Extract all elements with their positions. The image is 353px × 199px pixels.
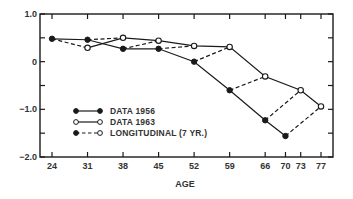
legend: DATA 1956DATA 1963LONGITUDINAL (7 YR.): [74, 106, 208, 138]
filled-circle-marker: [49, 36, 54, 41]
line-chart: 1.00−1.0−2.0 24313845525966707377 DATA 1…: [0, 0, 353, 199]
filled-circle-icon: [98, 109, 103, 114]
x-tick-label: 38: [118, 161, 128, 171]
filled-circle-marker: [191, 59, 196, 64]
y-tick-label: 0: [32, 57, 37, 67]
open-circle-marker: [156, 38, 161, 43]
legend-item: DATA 1963: [74, 117, 156, 127]
open-circle-marker: [318, 104, 323, 109]
x-tick-label: 45: [154, 161, 164, 171]
filled-circle-marker: [85, 37, 90, 42]
filled-circle-marker: [262, 118, 267, 123]
longitudinal-segment: [230, 76, 266, 90]
legend-item: LONGITUDINAL (7 YR.): [74, 128, 208, 138]
open-circle-marker: [191, 43, 196, 48]
legend-label: LONGITUDINAL (7 YR.): [110, 128, 207, 138]
open-circle-marker: [227, 44, 232, 49]
open-circle-marker: [298, 88, 303, 93]
x-tick-label: 31: [83, 161, 93, 171]
filled-circle-marker: [156, 46, 161, 51]
longitudinal-segment: [285, 106, 321, 136]
open-circle-marker: [85, 45, 90, 50]
legend-label: DATA 1963: [110, 117, 155, 127]
y-tick-label: 1.0: [24, 9, 37, 19]
longitudinal-segment: [265, 90, 301, 120]
longitudinal-segment: [159, 46, 195, 49]
open-circle-icon: [98, 120, 103, 125]
filled-circle-marker: [120, 46, 125, 51]
longitudinal-segment: [194, 47, 230, 62]
filled-circle-icon: [74, 131, 79, 136]
longitudinal-segment: [123, 41, 159, 49]
plot-series: [49, 35, 323, 139]
x-tick-label: 73: [296, 161, 306, 171]
x-tick-label: 66: [260, 161, 270, 171]
y-tick-label: −2.0: [19, 152, 37, 162]
filled-circle-marker: [227, 88, 232, 93]
open-circle-marker: [120, 35, 125, 40]
filled-circle-icon: [74, 109, 79, 114]
x-tick-label: 70: [280, 161, 290, 171]
filled-circle-marker: [283, 133, 288, 138]
open-circle-icon: [74, 120, 79, 125]
y-tick-label: −1.0: [19, 104, 37, 114]
x-tick-label: 24: [47, 161, 57, 171]
x-tick-label: 59: [225, 161, 235, 171]
legend-label: DATA 1956: [110, 106, 155, 116]
open-circle-icon: [98, 131, 103, 136]
x-tick-label: 77: [316, 161, 326, 171]
x-axis-title: AGE: [175, 179, 195, 189]
open-circle-marker: [262, 74, 267, 79]
legend-item: DATA 1956: [74, 106, 156, 116]
x-tick-label: 52: [189, 161, 199, 171]
